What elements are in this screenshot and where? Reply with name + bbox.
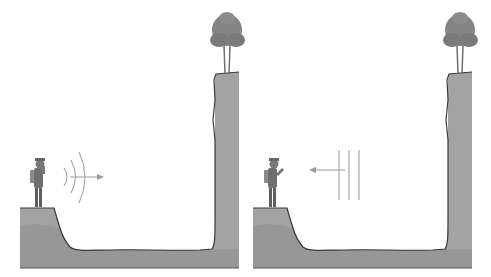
arrow-left-icon: [309, 167, 345, 173]
panel-shout: [20, 12, 245, 268]
sound-waves-returning: [339, 150, 359, 200]
hiker-shouting-icon: [30, 158, 45, 207]
ground-lower-band: [253, 224, 472, 268]
tree-icon: [443, 12, 478, 74]
ground-lower-band: [20, 224, 239, 268]
panel-echo: [253, 12, 478, 268]
tree-icon: [210, 12, 245, 74]
echo-diagram: [0, 0, 491, 277]
hiker-listening-icon: [264, 158, 284, 207]
